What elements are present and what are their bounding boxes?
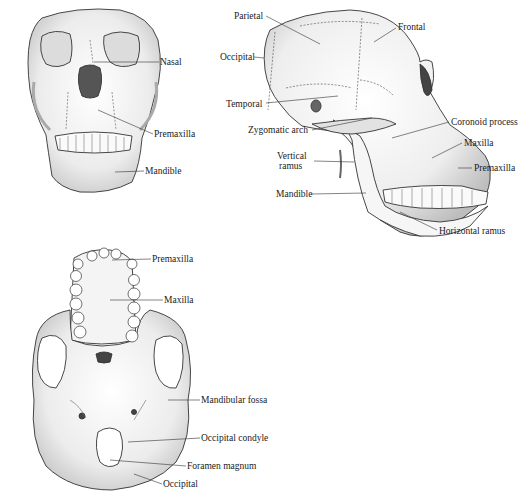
label-basal-premaxilla: Premaxilla xyxy=(152,254,193,265)
label-basal-maxilla: Maxilla xyxy=(164,295,194,306)
skull-illustrations xyxy=(0,0,532,500)
label-front-premaxilla: Premaxilla xyxy=(154,129,195,140)
label-lateral-premaxilla: Premaxilla xyxy=(474,163,515,174)
label-basal-mandibular-fossa: Mandibular fossa xyxy=(201,395,267,406)
label-lateral-ramus: ramus xyxy=(279,161,302,172)
label-lateral-frontal: Frontal xyxy=(398,22,425,33)
label-lateral-temporal: Temporal xyxy=(226,99,262,110)
label-lateral-horizontal-ramus: Horizontal ramus xyxy=(439,226,505,237)
label-basal-occipital-condyle: Occipital condyle xyxy=(201,433,268,444)
front-skull xyxy=(28,9,160,192)
label-lateral-zygomatic-arch: Zygomatic arch xyxy=(248,125,308,136)
label-lateral-mandible: Mandible xyxy=(276,189,312,200)
label-lateral-coronoid-process: Coronoid process xyxy=(451,117,518,128)
label-front-nasal: Nasal xyxy=(160,57,182,68)
label-lateral-parietal: Parietal xyxy=(234,11,263,22)
anatomy-figure: Nasal Premaxilla Mandible Parietal Front… xyxy=(0,0,532,500)
label-front-mandible: Mandible xyxy=(145,166,181,177)
label-basal-foramen-magnum: Foramen magnum xyxy=(187,461,256,472)
basal-skull xyxy=(32,248,190,490)
label-basal-occipital: Occipital xyxy=(163,479,198,490)
label-lateral-maxilla: Maxilla xyxy=(464,138,494,149)
label-lateral-occipital: Occipital xyxy=(220,52,255,63)
